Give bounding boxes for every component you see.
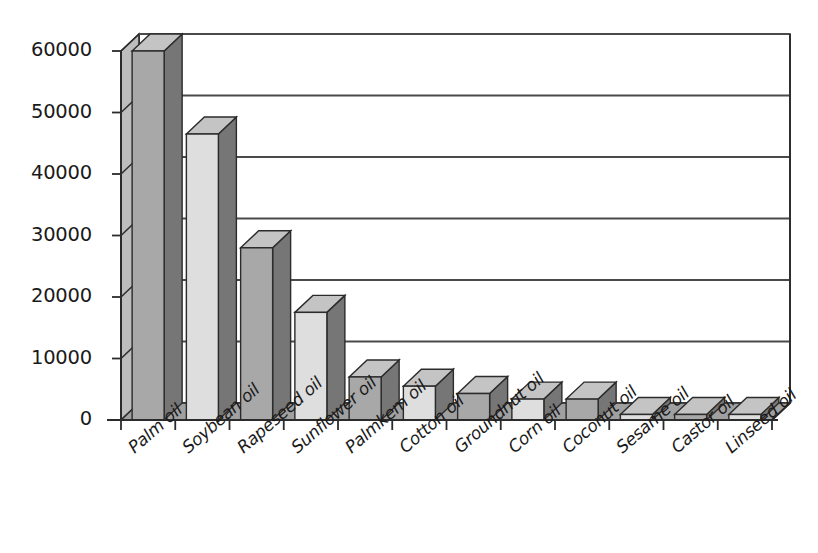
y-tick-label: 20000 — [31, 284, 92, 307]
y-tick-label: 50000 — [31, 100, 92, 123]
y-tick-label: 60000 — [31, 38, 92, 61]
chart-canvas — [0, 0, 818, 553]
bar-soybean-oil — [186, 117, 236, 420]
y-tick-label: 40000 — [31, 161, 92, 184]
bar-palm-oil — [132, 34, 182, 420]
y-tick-label: 0 — [80, 407, 92, 430]
bar-chart: 0100002000030000400005000060000 Palm oil… — [0, 0, 818, 553]
y-tick-label: 10000 — [31, 346, 92, 369]
y-tick-label: 30000 — [31, 223, 92, 246]
